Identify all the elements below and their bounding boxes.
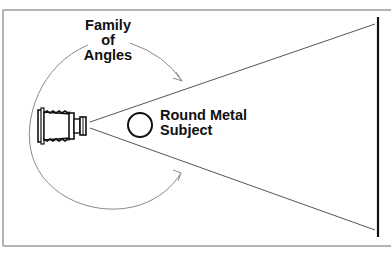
label-line-1: Family xyxy=(68,18,148,33)
view-camera-icon xyxy=(38,108,86,144)
label-line-3: Angles xyxy=(68,48,148,63)
family-of-angles-diagram: Family of Angles Round Metal Subject xyxy=(0,0,391,253)
round-metal-subject-label: Round Metal Subject xyxy=(160,108,247,138)
label-line-2: of xyxy=(68,33,148,48)
lower-angle-line xyxy=(90,128,375,230)
round-metal-subject xyxy=(128,113,152,137)
family-of-angles-label: Family of Angles xyxy=(68,18,148,63)
subject-line-1: Round Metal xyxy=(160,108,247,123)
upper-arrowhead-icon xyxy=(173,72,182,81)
subject-line-2: Subject xyxy=(160,123,247,138)
